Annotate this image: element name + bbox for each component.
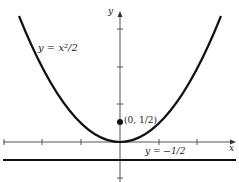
focus-point bbox=[117, 119, 123, 125]
focus-label: (0, 1/2) bbox=[124, 115, 157, 125]
x-axis-label: x bbox=[229, 143, 234, 153]
y-axis-arrow-icon bbox=[118, 11, 123, 17]
parabola-diagram bbox=[0, 0, 239, 182]
directrix-label: y = −1/2 bbox=[145, 146, 185, 156]
y-axis-label: y bbox=[108, 6, 113, 16]
curve-label: y = x²/2 bbox=[38, 42, 78, 53]
